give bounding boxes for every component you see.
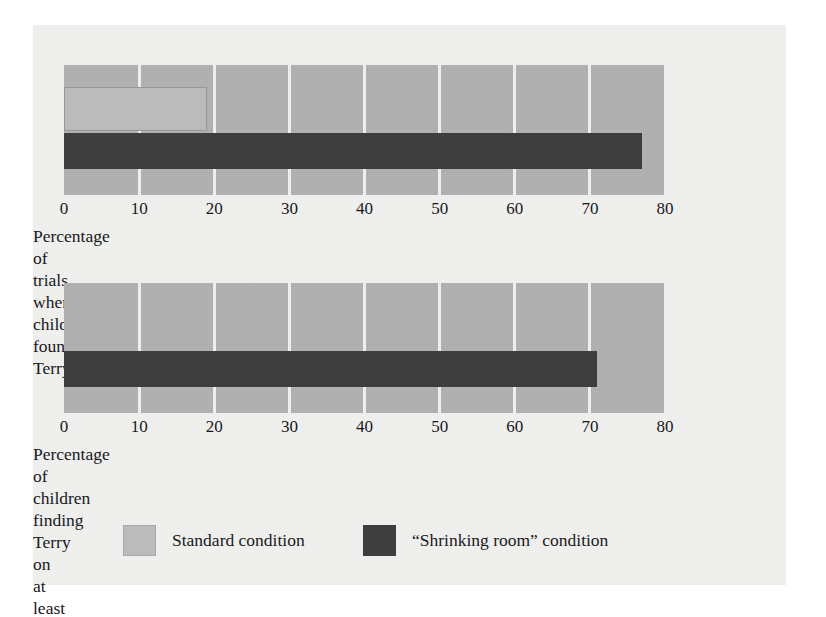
gridline <box>363 65 366 195</box>
legend-swatch-standard <box>123 525 156 556</box>
gridline <box>588 283 591 413</box>
gridline <box>288 283 291 413</box>
gridline <box>213 283 216 413</box>
x-tick-label: 10 <box>131 197 148 221</box>
x-tick-label: 50 <box>431 415 448 439</box>
gridline <box>288 65 291 195</box>
gridline <box>363 283 366 413</box>
gridline <box>588 65 591 195</box>
gridline <box>213 65 216 195</box>
x-tick-label: 50 <box>431 197 448 221</box>
gridline <box>664 283 666 413</box>
bar-shrinking <box>64 133 642 169</box>
legend-label-shrinking: “Shrinking room” condition <box>412 530 608 551</box>
legend-swatch-shrinking <box>363 525 396 556</box>
gridline <box>513 65 516 195</box>
plot-area-children <box>64 283 665 413</box>
x-tick-label: 10 <box>131 415 148 439</box>
legend-item-standard: Standard condition <box>123 520 305 560</box>
x-tick-label: 20 <box>206 415 223 439</box>
figure-sheet: 01020304050607080 Percentage of trials w… <box>33 25 786 585</box>
gridline <box>438 65 441 195</box>
gridline <box>438 283 441 413</box>
bar-shrinking <box>64 351 597 387</box>
chart-legend: Standard condition “Shrinking room” cond… <box>33 520 786 570</box>
x-tick-label: 40 <box>356 415 373 439</box>
x-tick-label: 70 <box>581 197 598 221</box>
x-tick-label: 30 <box>281 415 298 439</box>
legend-label-standard: Standard condition <box>172 530 305 551</box>
gridline <box>138 283 141 413</box>
x-tick-label: 0 <box>60 415 69 439</box>
x-axis-children: 01020304050607080 <box>64 415 665 439</box>
x-tick-label: 80 <box>657 197 674 221</box>
x-tick-label: 0 <box>60 197 69 221</box>
x-tick-label: 60 <box>506 197 523 221</box>
x-tick-label: 20 <box>206 197 223 221</box>
legend-item-shrinking: “Shrinking room” condition <box>363 520 608 560</box>
bar-standard <box>64 87 207 131</box>
x-tick-label: 30 <box>281 197 298 221</box>
gridline <box>664 65 666 195</box>
x-tick-label: 60 <box>506 415 523 439</box>
plot-area-trials <box>64 65 665 195</box>
x-tick-label: 40 <box>356 197 373 221</box>
x-tick-label: 80 <box>657 415 674 439</box>
x-axis-trials: 01020304050607080 <box>64 197 665 221</box>
x-tick-label: 70 <box>581 415 598 439</box>
gridline <box>513 283 516 413</box>
